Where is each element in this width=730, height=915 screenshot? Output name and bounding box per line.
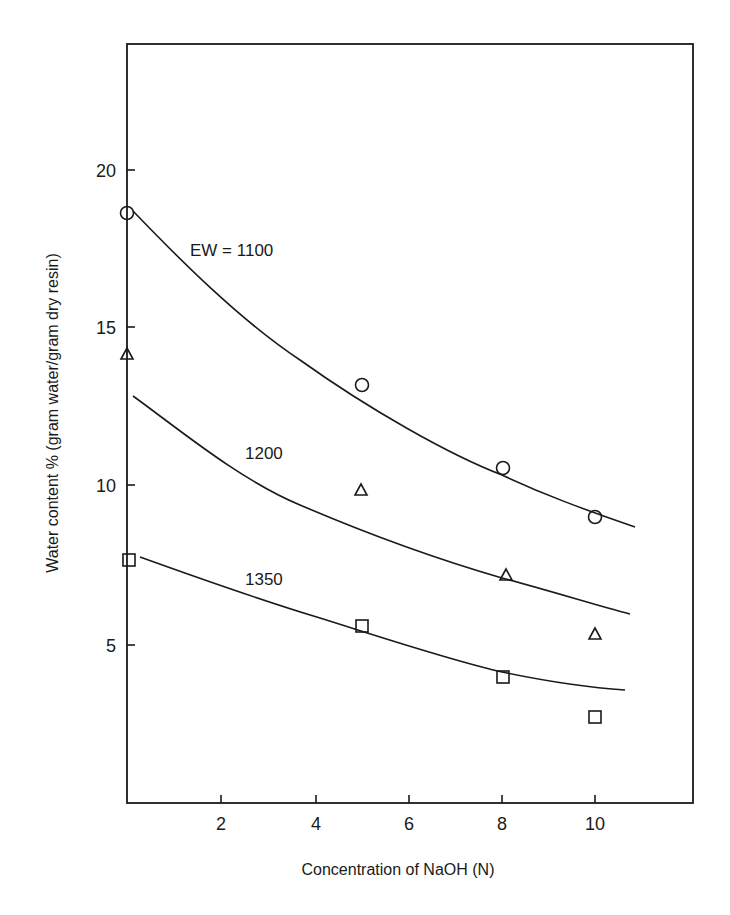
curve-label-ew-1350: 1350	[245, 570, 283, 589]
y-axis-tick-labels: 20 15 10 5	[96, 161, 116, 656]
x-axis-tick-labels: 2 4 6 8 10	[216, 814, 605, 834]
y-tick-label: 10	[96, 476, 116, 496]
y-tick-label: 15	[96, 318, 116, 338]
x-tick-label: 4	[311, 814, 321, 834]
y-axis-ticks	[127, 170, 135, 645]
y-tick-label: 5	[106, 636, 116, 656]
x-tick-label: 2	[216, 814, 226, 834]
y-axis-label: Water content % (gram water/gram dry res…	[44, 253, 61, 573]
curve-ew-1350	[140, 557, 625, 690]
triangle-marker-icon	[355, 484, 367, 495]
curve-label-ew-1200: 1200	[245, 444, 283, 463]
x-tick-label: 8	[497, 814, 507, 834]
circle-marker-icon	[356, 379, 369, 392]
chart-canvas: 20 15 10 5 2 4 6 8 10 Concentration of N…	[0, 0, 730, 915]
curve-label-ew-1100: EW = 1100	[190, 241, 273, 260]
square-marker-icon	[123, 554, 135, 566]
triangle-marker-icon	[589, 628, 601, 639]
x-axis-label: Concentration of NaOH (N)	[302, 861, 495, 878]
circle-marker-icon	[497, 462, 510, 475]
y-tick-label: 20	[96, 161, 116, 181]
markers-ew-1350	[123, 554, 601, 723]
square-marker-icon	[589, 711, 601, 723]
x-axis-ticks	[221, 795, 595, 803]
x-tick-label: 6	[404, 814, 414, 834]
x-tick-label: 10	[585, 814, 605, 834]
